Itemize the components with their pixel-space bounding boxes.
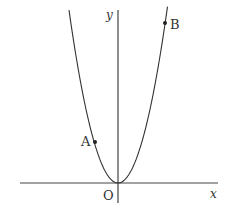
y-axis-label: y: [105, 8, 113, 22]
x-axis-label: x: [210, 187, 217, 201]
point-a-label: A: [80, 134, 91, 149]
origin-label: O: [103, 188, 114, 203]
point-a: [93, 140, 97, 144]
point-b-label: B: [170, 17, 180, 32]
diagram-canvas: A B O y x: [0, 0, 233, 215]
parabola-diagram: A B O y x: [0, 0, 233, 215]
point-b: [163, 21, 167, 25]
